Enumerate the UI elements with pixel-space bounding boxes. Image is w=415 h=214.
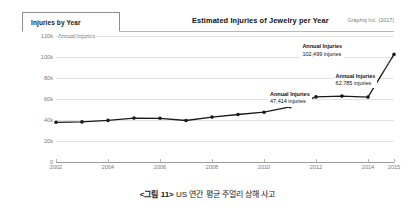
y-tick-label: 100k xyxy=(41,54,53,60)
y-tick-label: 80k xyxy=(44,75,53,81)
data-point xyxy=(158,117,162,121)
tab-label: Injuries by Year xyxy=(31,19,81,26)
x-tick-label: 2008 xyxy=(206,164,218,170)
y-tick-label: 20k xyxy=(44,138,53,144)
tab-injuries-by-year[interactable]: Injuries by Year xyxy=(22,12,120,32)
annotation-47414: Annual Injuries 47,414 injuries xyxy=(268,90,312,106)
x-tick-label: 2004 xyxy=(102,164,114,170)
chart-page: Injuries by Year Estimated Injuries of J… xyxy=(0,0,415,214)
plot-area: 020k40k60k80k100k120k Annual Injuries 20… xyxy=(22,36,394,176)
annotation-leader-line xyxy=(380,58,392,76)
data-point xyxy=(54,121,58,125)
chart-card: Injuries by Year Estimated Injuries of J… xyxy=(22,12,394,172)
data-point xyxy=(132,116,136,120)
x-tick-label: 2015 xyxy=(388,164,400,170)
data-point xyxy=(210,115,214,119)
data-point xyxy=(262,110,266,114)
y-tick-label: 60k xyxy=(44,96,53,102)
annotation-62785: Annual Injuries 62,785 injuries xyxy=(334,72,378,88)
data-point xyxy=(236,113,240,117)
x-tick-label: 2006 xyxy=(154,164,166,170)
chart-title: Estimated Injuries of Jewelry per Year xyxy=(192,16,329,25)
x-tick-label: 2002 xyxy=(50,164,62,170)
data-point xyxy=(340,94,344,98)
data-point xyxy=(184,119,188,123)
y-tick-label: 40k xyxy=(44,117,53,123)
data-point xyxy=(314,95,318,99)
figure-caption-text: US 연간 평균 주얼리 상해 사고 xyxy=(176,190,275,199)
tab-strip-divider xyxy=(119,31,394,32)
figure-caption: <그림 11> US 연간 평균 주얼리 상해 사고 xyxy=(0,188,415,199)
x-tick-label: 2012 xyxy=(310,164,322,170)
chart-attribution: Graphiq Inc. (2017) xyxy=(348,17,394,23)
data-point xyxy=(106,119,110,123)
x-tick-label: 2010 xyxy=(258,164,270,170)
x-axis-labels: 20022004200620082010201220142015 xyxy=(56,164,394,176)
x-tick-label: 2014 xyxy=(362,164,374,170)
data-point xyxy=(366,95,370,99)
y-axis-labels: 020k40k60k80k100k120k xyxy=(22,36,56,162)
figure-number: <그림 11> xyxy=(140,190,174,199)
y-tick-label: 120k xyxy=(41,33,53,39)
series-line-annual-injuries xyxy=(56,36,400,168)
annotation-102499: Annual Injuries 102,499 injuries xyxy=(300,42,344,58)
data-point xyxy=(392,53,396,57)
data-point xyxy=(80,120,84,124)
